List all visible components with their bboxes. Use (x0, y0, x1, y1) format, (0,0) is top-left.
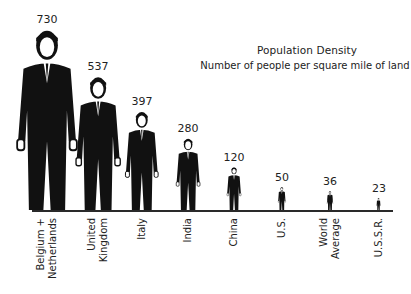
value-label: 23 (359, 182, 399, 195)
chart-title: Population Density (222, 44, 392, 56)
category-label: United Kingdom (86, 218, 110, 294)
figure-icon (173, 138, 203, 210)
figure-icon (121, 111, 163, 210)
category-label: Italy (136, 218, 148, 294)
category-label: Belgium + Netherlands (35, 218, 59, 294)
value-label: 120 (214, 151, 254, 164)
value-label: 36 (310, 175, 350, 188)
figure-icon (277, 187, 287, 210)
value-label: 730 (27, 13, 67, 26)
category-label: U.S. (276, 218, 288, 294)
category-label: China (228, 218, 240, 294)
category-label: India (182, 218, 194, 294)
value-label: 50 (262, 171, 302, 184)
value-label: 397 (122, 95, 162, 108)
figure-icon (225, 167, 243, 210)
figure-icon (326, 191, 334, 210)
category-label: World Average (318, 218, 342, 294)
value-label: 537 (78, 60, 118, 73)
category-label: U.S.S.R. (373, 218, 385, 294)
figure-icon (376, 198, 381, 210)
chart-subtitle: Number of people per square mile of land (200, 60, 410, 71)
baseline-axis (32, 210, 393, 212)
figure-icon (70, 76, 126, 210)
value-label: 280 (168, 122, 208, 135)
